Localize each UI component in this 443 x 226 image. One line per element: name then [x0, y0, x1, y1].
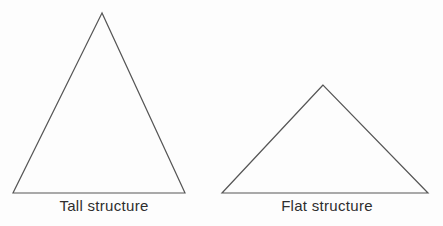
tall-structure-label: Tall structure	[24, 198, 184, 214]
diagram-canvas	[0, 0, 443, 226]
flat-structure-label: Flat structure	[247, 198, 407, 214]
flat-triangle-shape	[222, 85, 428, 193]
tall-triangle-shape	[13, 13, 185, 193]
